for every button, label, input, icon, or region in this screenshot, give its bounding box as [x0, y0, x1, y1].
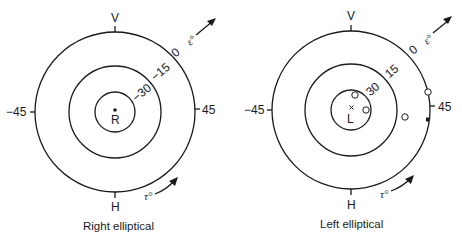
outer-ring: [272, 31, 430, 189]
data-point-filled-mark: [426, 118, 430, 122]
tau-label: τ°: [380, 188, 389, 200]
middle-ring: [305, 64, 397, 156]
ring-label-middle: 15: [382, 61, 401, 81]
center-x-marker: [350, 106, 354, 110]
left-elliptical-figure: V H −45 45 0 15 30 L ε° τ° Left elliptic…: [244, 9, 452, 230]
axis-label-left: −45: [244, 103, 265, 117]
epsilon-arrowhead-icon: [443, 16, 452, 24]
axis-label-bottom: H: [111, 200, 120, 214]
epsilon-label: ε°: [421, 31, 436, 46]
polarization-diagrams: V H −45 45 0 −15 −30 R ε° τ° Right ellip…: [0, 0, 462, 239]
axis-label-right: 45: [438, 100, 452, 114]
center-dot-marker: [113, 108, 117, 112]
center-label: L: [347, 112, 354, 126]
tau-label: τ°: [144, 190, 153, 202]
axis-label-top: V: [347, 9, 355, 23]
data-point-open-circle: [425, 89, 431, 95]
middle-ring: [69, 66, 161, 158]
tau-arrow-icon: [391, 179, 410, 191]
tau-arrow-icon: [155, 181, 174, 194]
axis-label-right: 45: [202, 103, 216, 117]
ring-label-inner: −30: [129, 80, 154, 104]
caption: Left elliptical: [320, 218, 383, 230]
data-point-open-circle: [363, 107, 369, 113]
outer-ring: [35, 32, 195, 192]
axis-label-left: −45: [6, 105, 27, 119]
ring-label-middle: −15: [148, 60, 173, 84]
ring-label-outer: 0: [168, 45, 182, 60]
axis-label-bottom: H: [347, 198, 356, 212]
data-point-open-circle: [402, 114, 408, 120]
caption: Right elliptical: [83, 220, 154, 232]
center-label: R: [111, 113, 120, 127]
right-elliptical-figure: V H −45 45 0 −15 −30 R ε° τ° Right ellip…: [6, 11, 216, 232]
data-point-open-circle: [352, 92, 358, 98]
axis-label-top: V: [111, 11, 119, 25]
